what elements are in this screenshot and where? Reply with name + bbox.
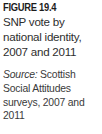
source-label: Source:: [3, 69, 37, 80]
figure-title: SNP vote by national identity, 2007 and …: [3, 15, 100, 59]
figure-source: Source: Scottish Social Attitudes survey…: [3, 68, 100, 122]
figure-caption-block: FIGURE 19.4 SNP vote by national identit…: [0, 0, 102, 134]
figure-number-heading: FIGURE 19.4: [3, 2, 92, 14]
